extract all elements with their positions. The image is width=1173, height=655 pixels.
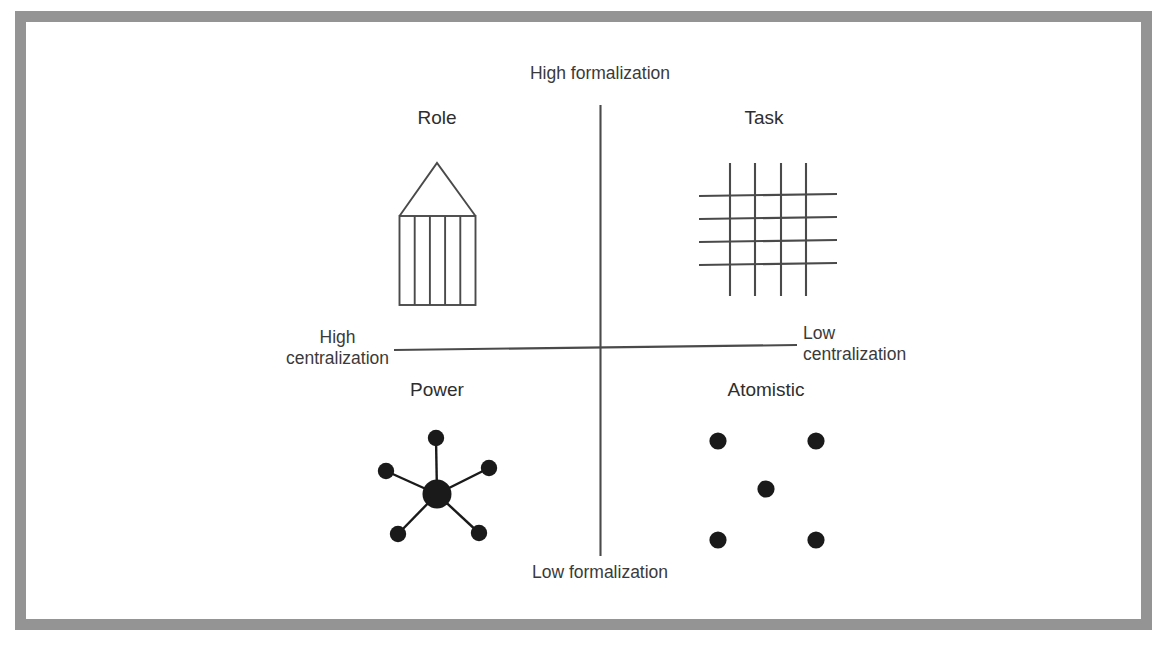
axis-label-low-centralization-line1: Low [803,323,913,344]
quadrant-label-power: Power [410,379,464,401]
atom-dot [807,432,824,449]
satellite-node [471,525,487,541]
lattice-horizontal-strand [699,240,837,242]
axis-label-low-centralization-line2: centralization [803,344,913,365]
lattice-horizontal-strand [699,263,837,265]
hub-node [423,480,452,509]
satellite-node [481,460,497,476]
lattice-horizontal-strand [699,194,837,196]
atom-dot [807,531,824,548]
temple-pediment [400,163,476,216]
axis-label-high-centralization-line1: High [285,327,390,348]
quadrant-label-task: Task [744,107,783,129]
axis-label-low-centralization: Low centralization [803,323,913,365]
satellite-node [378,463,394,479]
diagram-page: High formalization Low formalization Hig… [0,0,1173,655]
atom-dot [757,480,774,497]
horizontal-axis-line [394,345,797,350]
hub-and-spoke-icon [378,430,497,542]
quadrant-label-role: Role [417,107,456,129]
scattered-dots-icon [709,432,824,548]
matrix-canvas [0,0,1173,655]
lattice-grid-icon [699,163,837,296]
axis-label-low-formalization: Low formalization [532,562,668,583]
atom-dot [709,531,726,548]
axis-label-high-centralization-line2: centralization [285,348,390,369]
atom-dot [709,432,726,449]
axis-lines [394,105,797,556]
axis-label-high-centralization: High centralization [285,327,390,369]
satellite-node [390,526,406,542]
axis-label-high-formalization: High formalization [530,63,670,84]
quadrant-label-atomistic: Atomistic [727,379,804,401]
satellite-node [428,430,444,446]
lattice-horizontal-strand [699,217,837,219]
temple-body [400,216,476,305]
greek-temple-icon [400,163,476,305]
